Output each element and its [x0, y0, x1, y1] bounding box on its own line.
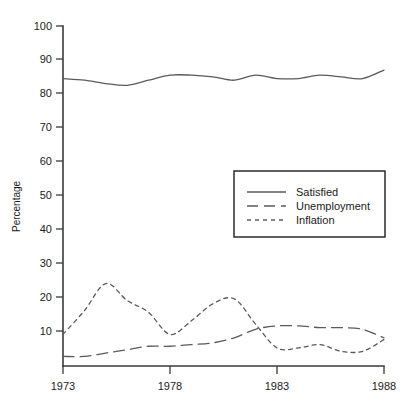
x-tick-label-1978: 1978	[158, 380, 182, 392]
y-tick-label-90: 90	[40, 53, 52, 65]
legend: Satisfied Unemployment Inflation	[234, 171, 385, 237]
legend-label-unemployment: Unemployment	[296, 200, 370, 212]
y-tick-label-10: 10	[40, 325, 52, 337]
x-tick-label-1973: 1973	[51, 380, 75, 392]
x-axis-ticks	[63, 366, 384, 374]
series-line-satisfied	[63, 70, 384, 85]
y-tick-label-60: 60	[40, 155, 52, 167]
y-axis-ticks	[56, 26, 63, 331]
y-tick-label-20: 20	[40, 291, 52, 303]
y-axis-title: Percentage	[11, 180, 22, 232]
x-axis-tick-labels: 1973 1978 1983 1988	[51, 380, 396, 392]
y-tick-label-40: 40	[40, 223, 52, 235]
series-line-inflation	[63, 283, 384, 352]
legend-label-satisfied: Satisfied	[296, 186, 338, 198]
x-tick-label-1988: 1988	[372, 380, 396, 392]
x-tick-label-1983: 1983	[265, 380, 289, 392]
series-line-unemployment	[63, 326, 384, 357]
y-tick-label-50: 50	[40, 189, 52, 201]
y-tick-label-30: 30	[40, 257, 52, 269]
chart-container: Percentage 100 90 80 70 60 50 40	[0, 0, 408, 407]
y-tick-label-100: 100	[34, 20, 52, 32]
y-axis-tick-labels: 100 90 80 70 60 50 40 30 20 10	[34, 20, 52, 337]
legend-label-inflation: Inflation	[296, 214, 335, 226]
line-chart: Percentage 100 90 80 70 60 50 40	[0, 0, 408, 407]
y-tick-label-80: 80	[40, 87, 52, 99]
y-tick-label-70: 70	[40, 121, 52, 133]
